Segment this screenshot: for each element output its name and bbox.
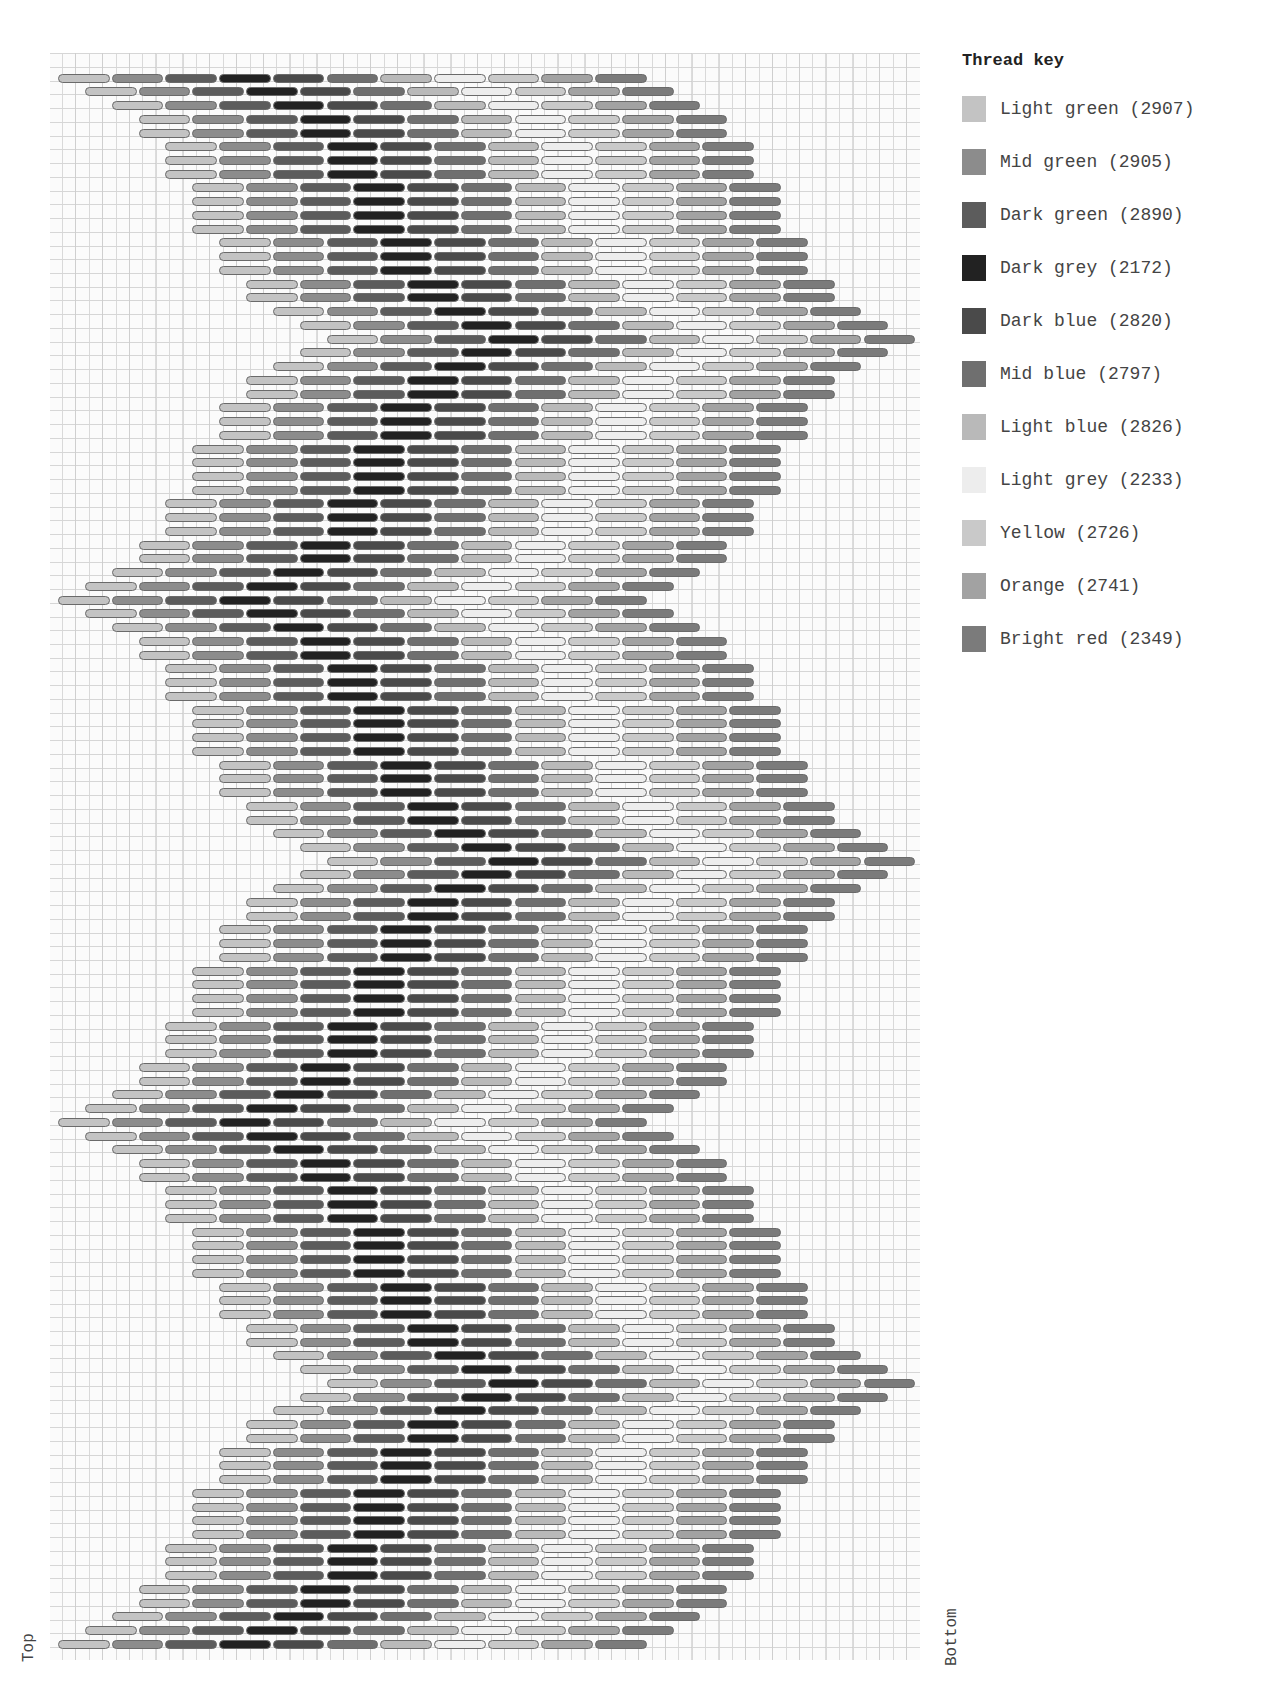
stitch <box>300 197 352 206</box>
stitch <box>515 747 567 756</box>
stitch <box>192 980 244 989</box>
stitch <box>192 458 244 467</box>
stitch <box>407 1269 459 1278</box>
stitch <box>461 197 513 206</box>
stitch <box>407 980 459 989</box>
stitch <box>622 967 674 976</box>
stitch <box>649 1448 701 1457</box>
stitch <box>273 664 325 673</box>
stitch <box>568 843 620 852</box>
stitch <box>165 1200 217 1209</box>
stitch <box>568 348 620 357</box>
stitch <box>407 1228 459 1237</box>
stitch <box>676 1585 728 1594</box>
stitch <box>246 1420 298 1429</box>
stitch <box>515 1063 567 1072</box>
stitch <box>300 843 352 852</box>
stitch <box>488 1379 540 1388</box>
stitch <box>380 678 432 687</box>
stitch <box>192 706 244 715</box>
stitch <box>407 747 459 756</box>
stitch <box>327 623 379 632</box>
stitch <box>676 1324 728 1333</box>
stitch <box>488 1475 540 1484</box>
stitch <box>649 1379 701 1388</box>
stitch <box>85 609 137 618</box>
stitch <box>595 925 647 934</box>
stitch <box>515 211 567 220</box>
stitch <box>729 719 781 728</box>
stitch <box>380 1475 432 1484</box>
stitch <box>515 1324 567 1333</box>
stitch <box>649 307 701 316</box>
legend-item-label: Bright red (2349) <box>1000 628 1184 650</box>
stitch <box>353 183 405 192</box>
stitch <box>541 1448 593 1457</box>
stitch <box>541 1049 593 1058</box>
stitch <box>407 1104 459 1113</box>
stitch <box>783 293 835 302</box>
stitch <box>595 788 647 797</box>
stitch <box>541 1544 593 1553</box>
stitch <box>380 884 432 893</box>
stitch <box>568 376 620 385</box>
stitch <box>246 1008 298 1017</box>
stitch <box>165 527 217 536</box>
legend-item: Dark blue (2820) <box>962 308 1064 361</box>
stitch <box>649 1571 701 1580</box>
stitch <box>702 1186 754 1195</box>
stitch <box>515 197 567 206</box>
stitch <box>353 637 405 646</box>
stitch <box>407 898 459 907</box>
stitch <box>273 1557 325 1566</box>
stitch <box>676 1365 728 1374</box>
stitch <box>192 1599 244 1608</box>
stitch <box>729 1420 781 1429</box>
stitch <box>165 1186 217 1195</box>
stitch <box>219 1283 271 1292</box>
stitch <box>380 1612 432 1621</box>
stitch <box>300 225 352 234</box>
stitch <box>434 1118 486 1127</box>
stitch <box>488 1049 540 1058</box>
stitch <box>273 829 325 838</box>
stitch <box>541 692 593 701</box>
stitch <box>139 637 191 646</box>
stitch <box>515 994 567 1003</box>
stitch <box>783 321 835 330</box>
stitch <box>810 829 862 838</box>
stitch <box>273 1310 325 1319</box>
stitch <box>353 1132 405 1141</box>
stitch <box>273 1544 325 1553</box>
stitch <box>756 266 808 275</box>
stitch <box>461 348 513 357</box>
stitch <box>541 1557 593 1566</box>
color-swatch <box>962 308 986 334</box>
stitch <box>273 953 325 962</box>
stitch <box>246 1228 298 1237</box>
stitch <box>595 101 647 110</box>
stitch <box>192 211 244 220</box>
stitch <box>300 1228 352 1237</box>
stitch <box>595 513 647 522</box>
stitch <box>756 1283 808 1292</box>
stitch <box>380 939 432 948</box>
stitch <box>192 719 244 728</box>
stitch <box>756 1461 808 1470</box>
stitch <box>353 582 405 591</box>
legend-item: Dark grey (2172) <box>962 255 1064 308</box>
stitch <box>300 719 352 728</box>
stitch <box>649 774 701 783</box>
stitch <box>219 170 271 179</box>
stitch <box>676 183 728 192</box>
stitch <box>165 692 217 701</box>
stitch <box>515 87 567 96</box>
stitch <box>434 568 486 577</box>
stitch <box>434 417 486 426</box>
stitch <box>622 197 674 206</box>
stitch <box>246 280 298 289</box>
stitch <box>649 170 701 179</box>
stitch <box>273 142 325 151</box>
stitch <box>461 747 513 756</box>
stitch <box>649 692 701 701</box>
